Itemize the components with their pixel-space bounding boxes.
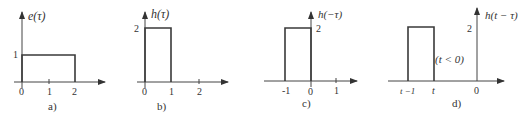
x-tick-1: 0 — [308, 86, 313, 97]
y-label: h(−τ) — [318, 8, 343, 21]
y-label: h(τ) — [151, 7, 169, 21]
x-tick-2: 1 — [334, 85, 339, 96]
y-tick: 2 — [134, 23, 139, 34]
y-label: e(τ) — [28, 9, 46, 23]
x-tick-0: -1 — [282, 85, 290, 96]
panel-c: h(−τ) 2 -1 0 1 c) — [264, 8, 357, 110]
x-tick-0: t −1 — [400, 86, 415, 96]
y-label: h(t − τ) — [485, 9, 518, 22]
caption: c) — [302, 97, 311, 110]
x-tick-0: 0 — [142, 86, 147, 97]
x-tick-2: 2 — [197, 86, 202, 97]
caption: d) — [452, 97, 462, 110]
x-tick-1: t — [432, 85, 435, 96]
x-tick-2: 0 — [474, 85, 479, 96]
x-tick-2: 2 — [72, 86, 77, 97]
panel-d: h(t − τ) 2 (t < 0) t −1 t 0 d) — [388, 8, 518, 110]
signal-h-reversed — [285, 28, 311, 81]
y-tick: 2 — [316, 23, 321, 34]
signal-h — [145, 28, 171, 82]
signal-e — [22, 55, 75, 82]
y-tick: 2 — [467, 23, 472, 34]
x-tick-0: 0 — [19, 86, 24, 97]
caption: b) — [157, 100, 167, 113]
panel-b: h(τ) 2 0 1 2 b) — [134, 7, 228, 113]
x-tick-1: 1 — [169, 86, 174, 97]
caption: a) — [48, 100, 57, 113]
convolution-diagram: e(τ) 1 0 1 2 a) h(τ) 2 0 1 2 b) h(−τ) 2 … — [0, 0, 526, 118]
y-tick: 1 — [13, 49, 18, 60]
signal-h-shifted — [408, 27, 434, 81]
x-tick-1: 1 — [47, 86, 52, 97]
panel-a: e(τ) 1 0 1 2 a) — [13, 9, 105, 113]
annotation: (t < 0) — [435, 53, 464, 66]
